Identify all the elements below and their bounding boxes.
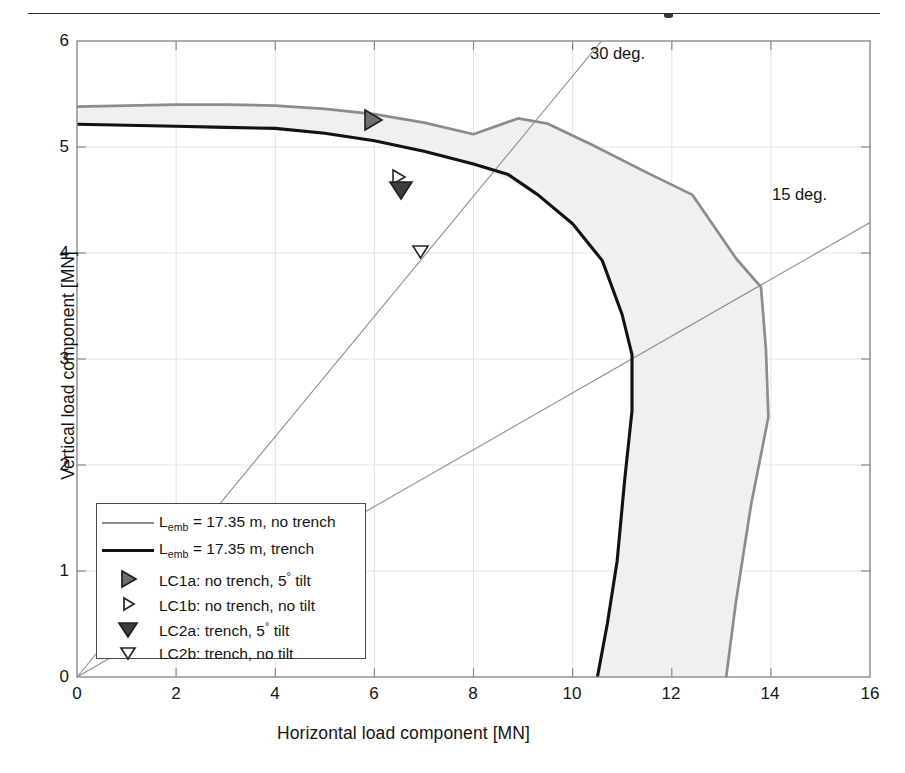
xtick-6: 6 — [354, 684, 394, 704]
triangle-right-open-icon — [117, 595, 139, 613]
legend-lemb-subscript-2: emb — [168, 548, 189, 560]
legend-lc2a-suffix: tilt — [269, 621, 289, 638]
x-axis-label: Horizontal load component [MN] — [277, 723, 530, 744]
legend-row-lc1b: LC1b: no trench, no tilt — [97, 591, 367, 617]
legend-label-no-trench: Lemb = 17.35 m, no trench — [159, 514, 336, 532]
legend-lc2b-prefix: LC2b: trench, no tilt — [159, 644, 293, 661]
xtick-0: 0 — [57, 684, 97, 704]
marker-lc2b — [413, 246, 428, 258]
legend-row-no-trench: Lemb = 17.35 m, no trench — [97, 510, 367, 536]
triangle-down-open-icon — [117, 643, 139, 661]
ytick-5: 5 — [33, 137, 69, 157]
xtick-14: 14 — [750, 684, 790, 704]
legend-key-line-no-trench — [97, 510, 159, 536]
legend-key-lc2b — [97, 639, 159, 665]
figure-page: 0 2 4 6 8 10 12 14 16 0 1 2 3 4 5 6 Hori… — [0, 0, 905, 773]
xtick-10: 10 — [552, 684, 592, 704]
xtick-8: 8 — [453, 684, 493, 704]
ytick-6: 6 — [33, 31, 69, 51]
annotation-30-deg: 30 deg. — [590, 44, 645, 63]
chart-legend: Lemb = 17.35 m, no trench Lemb = 17.35 m… — [96, 503, 366, 659]
legend-lemb-rest: = 17.35 m, no trench — [189, 513, 336, 530]
annotation-15-deg: 15 deg. — [772, 185, 827, 204]
y-axis-label: Vertical load component [MN] — [58, 206, 79, 526]
legend-row-trench: Lemb = 17.35 m, trench — [97, 537, 367, 563]
legend-label-lc2b: LC2b: trench, no tilt — [159, 644, 293, 661]
chart-figure: 0 2 4 6 8 10 12 14 16 0 1 2 3 4 5 6 Hori… — [0, 0, 905, 773]
legend-lc1b-prefix: LC1b: no trench, no tilt — [159, 596, 315, 613]
xtick-2: 2 — [156, 684, 196, 704]
legend-label-trench: Lemb = 17.35 m, trench — [159, 541, 314, 559]
legend-row-lc2b: LC2b: trench, no tilt — [97, 639, 367, 665]
legend-lc2a-prefix: LC2a: trench, 5 — [159, 621, 265, 638]
legend-lemb-subscript: emb — [168, 521, 189, 533]
line-swatch-black-icon — [102, 549, 154, 552]
marker-lc2a — [390, 182, 412, 199]
legend-label-lc2a: LC2a: trench, 5° tilt — [159, 621, 289, 638]
legend-key-lc1b — [97, 591, 159, 617]
legend-label-lc1b: LC1b: no trench, no tilt — [159, 596, 315, 613]
line-swatch-gray-icon — [102, 522, 154, 524]
legend-lemb-symbol: L — [159, 513, 168, 530]
legend-row-lc1a: LC1a: no trench, 5° tilt — [97, 566, 367, 592]
ytick-1: 1 — [33, 561, 69, 581]
xtick-4: 4 — [255, 684, 295, 704]
xtick-16: 16 — [850, 684, 890, 704]
legend-lc1a-prefix: LC1a: no trench, 5 — [159, 571, 287, 588]
legend-lemb-symbol-2: L — [159, 540, 168, 557]
legend-lc1a-suffix: tilt — [291, 571, 311, 588]
triangle-right-filled-icon — [117, 569, 139, 589]
xtick-12: 12 — [651, 684, 691, 704]
triangle-down-filled-icon — [116, 619, 140, 639]
legend-lemb-rest-2: = 17.35 m, trench — [189, 540, 314, 557]
ytick-0: 0 — [33, 667, 69, 687]
legend-key-line-trench — [97, 537, 159, 563]
legend-label-lc1a: LC1a: no trench, 5° tilt — [159, 571, 311, 588]
legend-key-lc1a — [97, 566, 159, 592]
